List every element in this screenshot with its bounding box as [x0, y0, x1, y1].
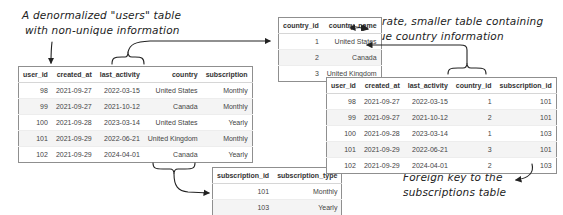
denorm-to-subscriptions-arrow — [174, 174, 209, 193]
annotation-arrows — [0, 0, 563, 215]
denorm-to-countries-arrow — [128, 41, 270, 52]
norm-country-brace — [448, 63, 486, 74]
country-note-arrow-shown — [350, 26, 368, 29]
denorm-country-brace — [153, 163, 195, 174]
fk-note-arrow — [516, 164, 532, 180]
users-note-pointer-arrow — [51, 42, 52, 63]
norm-to-countries-arrow — [367, 45, 467, 63]
denorm-header-brace — [112, 52, 144, 64]
